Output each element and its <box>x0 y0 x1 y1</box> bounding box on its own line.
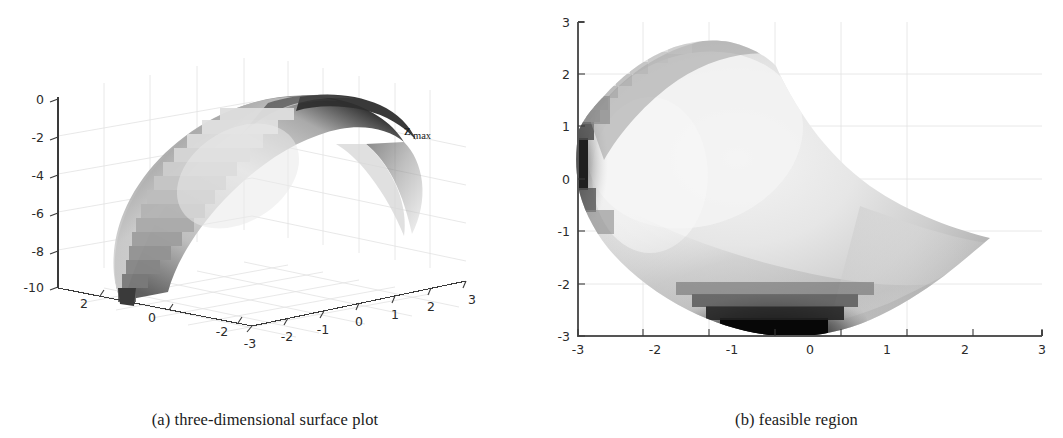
z-tick-label-0: 0 <box>36 92 44 107</box>
feasible-x-tick-label-4: 1 <box>883 342 891 357</box>
y-tick-label-2: -2 <box>216 324 228 339</box>
feasible-x-tick-label-1: -2 <box>649 342 661 357</box>
feasible-region-svg: 3 2 1 0 -1 -2 -3 -3 -2 -1 <box>530 0 1063 395</box>
feasible-x-tick-label-0: -3 <box>572 342 584 357</box>
feasible-x-tick-label-6: 3 <box>1038 342 1046 357</box>
feasible-y-tick-label-2: -1 <box>558 224 570 239</box>
feasible-x-tick-label-5: 2 <box>961 342 969 357</box>
z-axis-ticks: 0 -2 -4 -6 -8 -10 <box>24 92 58 295</box>
surface-mesh <box>113 94 422 306</box>
feasible-y-tick-label-1: -2 <box>558 277 570 292</box>
feasible-x-tick-label-2: -1 <box>726 342 738 357</box>
y-tick-label-1: 0 <box>148 310 156 325</box>
feasible-y-tick-label-5: 2 <box>562 67 570 82</box>
zmax-base-label: z <box>404 122 411 138</box>
caption-panel-b: (b) feasible region <box>530 410 1063 430</box>
z-tick-label-1: -2 <box>32 130 44 145</box>
heatmap-darkest-core <box>720 318 828 340</box>
y-tick-label-0: 2 <box>80 296 88 311</box>
heatmap-dark-left-2 <box>574 122 594 140</box>
surface-plot-svg: 0 -2 -4 -6 -8 -10 2 0 -2 <box>0 0 530 395</box>
figure-root: 0 -2 -4 -6 -8 -10 2 0 -2 <box>0 0 1063 438</box>
heatmap-dark-core-3 <box>692 294 858 307</box>
heatmap-dark-left-core <box>574 138 588 190</box>
feasible-x-tick-label-3: 0 <box>806 342 814 357</box>
z-tick-label-3: -6 <box>32 206 45 221</box>
feasible-y-tick-label-3: 0 <box>562 172 570 187</box>
feasible-y-tick-label-0: -3 <box>558 329 570 344</box>
caption-panel-a: (a) three-dimensional surface plot <box>0 410 530 430</box>
feasible-y-tick-label-4: 1 <box>562 119 570 134</box>
heatmap-dark-left-3 <box>574 188 596 212</box>
x-tick-label-2: -1 <box>317 322 329 337</box>
heatmap-dark-core-4 <box>676 282 874 295</box>
x-tick-label-3: 0 <box>355 314 363 329</box>
x-tick-label-0: -3 <box>244 336 256 351</box>
feasible-y-axis-ticks: 3 2 1 0 -1 -2 -3 <box>558 15 585 344</box>
x-tick-label-4: 1 <box>391 307 399 322</box>
panel-feasible-region: 3 2 1 0 -1 -2 -3 -3 -2 -1 <box>530 0 1063 438</box>
heatmap-dark-core-2 <box>706 306 844 320</box>
x-tick-label-1: -2 <box>281 329 293 344</box>
zmax-subscript-label: max <box>413 130 432 141</box>
panel-three-dimensional-surface-plot: 0 -2 -4 -6 -8 -10 2 0 -2 <box>0 0 530 438</box>
x-tick-label-5: 2 <box>427 299 435 314</box>
z-tick-label-5: -10 <box>24 280 44 295</box>
feasible-y-tick-label-6: 3 <box>562 15 570 30</box>
x-tick-label-6: 3 <box>468 292 476 307</box>
z-tick-label-4: -8 <box>32 244 45 259</box>
heatmap-dark-left-5 <box>586 210 614 234</box>
z-tick-label-2: -4 <box>32 168 45 183</box>
zmax-annotation: z max <box>404 122 432 141</box>
x-axis-ticks: -3 -2 -1 0 1 2 3 <box>244 281 476 351</box>
